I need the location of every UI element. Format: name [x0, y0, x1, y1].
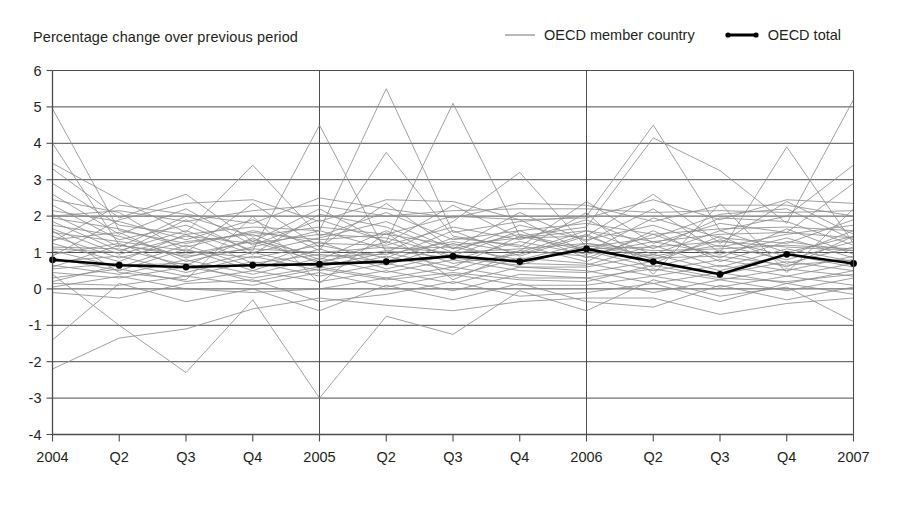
oecd-total-marker-8 [583, 245, 590, 252]
x-tick-label-1: Q2 [110, 449, 129, 465]
member-country-line-7 [53, 125, 854, 252]
chart-figure: Percentage change over previous period O… [0, 0, 898, 516]
member-country-line-6 [53, 147, 854, 253]
member-country-line-30 [53, 283, 854, 339]
x-tick-label-12: 2007 [837, 449, 869, 465]
y-tick-label-1: 1 [33, 245, 41, 261]
y-tick-label-4: 4 [33, 135, 41, 151]
oecd-total-marker-11 [783, 251, 790, 258]
y-tick-label-0: 0 [33, 281, 41, 297]
y-tick-label-3: 3 [33, 172, 41, 188]
oecd-total-marker-6 [450, 253, 457, 260]
y-tick-label--2: -2 [29, 354, 42, 370]
oecd-total-marker-10 [717, 271, 724, 278]
oecd-total-marker-9 [650, 258, 657, 265]
oecd-total-marker-5 [383, 258, 390, 265]
oecd-total-marker-3 [249, 262, 256, 269]
y-tick-label-5: 5 [33, 99, 41, 115]
y-axis-ticks [47, 71, 53, 435]
y-tick-label-6: 6 [33, 63, 41, 79]
member-country-line-32 [53, 274, 854, 398]
y-tick-label--3: -3 [29, 390, 42, 406]
oecd-total-marker-4 [316, 261, 323, 268]
oecd-total-marker-2 [183, 264, 190, 271]
oecd-total-marker-1 [116, 262, 123, 269]
x-tick-label-8: 2006 [570, 449, 602, 465]
x-tick-label-7: Q4 [510, 449, 529, 465]
x-axis-ticks [53, 435, 854, 442]
y-tick-label--1: -1 [29, 317, 42, 333]
chart-plot-area [0, 0, 898, 516]
x-tick-label-9: Q2 [644, 449, 663, 465]
x-tick-label-10: Q3 [710, 449, 729, 465]
oecd-total-marker-7 [516, 258, 523, 265]
x-tick-label-2: Q3 [176, 449, 195, 465]
x-tick-label-3: Q4 [243, 449, 262, 465]
y-tick-label-2: 2 [33, 208, 41, 224]
member-country-line-0 [53, 109, 854, 246]
x-tick-label-0: 2004 [36, 449, 68, 465]
x-tick-label-6: Q3 [443, 449, 462, 465]
member-country-line-5 [53, 100, 854, 246]
member-country-series-group [53, 89, 854, 398]
y-tick-label--4: -4 [29, 427, 42, 443]
x-tick-label-4: 2005 [303, 449, 335, 465]
x-tick-label-11: Q4 [777, 449, 796, 465]
member-country-line-31 [53, 298, 854, 369]
x-tick-label-5: Q2 [377, 449, 396, 465]
